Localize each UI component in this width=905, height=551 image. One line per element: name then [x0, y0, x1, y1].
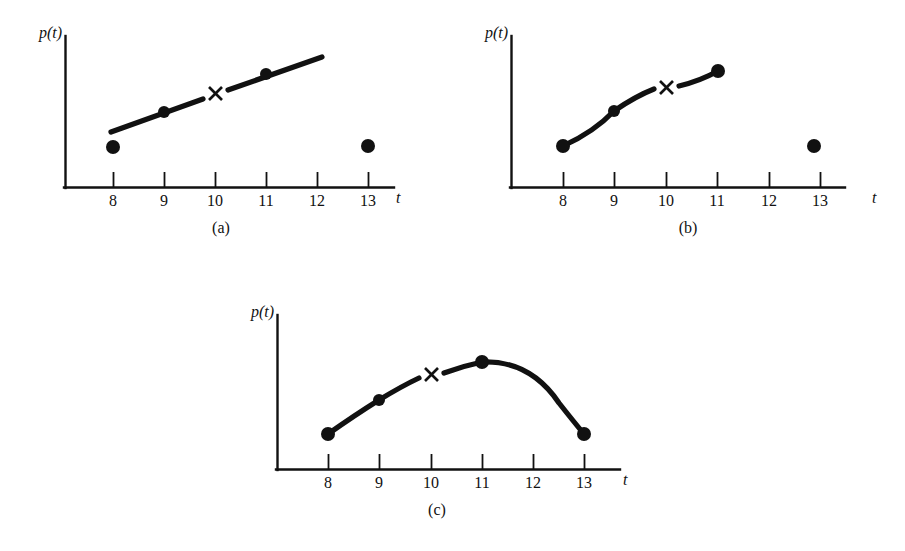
panel-a-fitted-line-right: [228, 57, 322, 90]
panel-a-observed-point-13: [361, 139, 375, 153]
panel-b-ticks: [564, 172, 821, 187]
panel-b-y-axis-label: p(t): [485, 25, 508, 41]
panel-a-tick-label-12: 12: [309, 193, 325, 209]
panel-c-fitted-point-11: [475, 355, 489, 369]
panel-b-fitted-curve-left: [563, 89, 654, 146]
panel-c-fitted-point-8: [321, 427, 335, 441]
panel-b-tick-label-13: 13: [812, 193, 828, 209]
panel-c-fitted-point-13: [577, 427, 591, 441]
panel-c-y-axis-label: p(t): [251, 304, 274, 320]
panel-c-tick-label-9: 9: [375, 475, 383, 491]
panel-b-tick-label-8: 8: [559, 193, 567, 209]
panel-b-observed-point-13: [807, 139, 821, 153]
panel-a-tick-label-8: 8: [109, 193, 117, 209]
panel-c-caption: (c): [428, 502, 446, 518]
panel-c-fitted-curve-right: [444, 362, 584, 434]
panel-c-ticks: [329, 454, 585, 469]
figure-root: p(t) t 8 9 10 11 12 13 (a) p(t) t 8 9 10…: [0, 0, 905, 551]
panel-b-fitted-point-11: [711, 64, 725, 78]
panel-a-tick-label-10: 10: [207, 193, 223, 209]
panel-c-tick-label-11: 11: [474, 475, 489, 491]
panel-c: [276, 315, 620, 470]
panel-a-x-axis-label: t: [396, 190, 400, 206]
panel-b-fitted-point-9: [608, 105, 620, 117]
figure-canvas: [0, 0, 905, 551]
panel-c-tick-label-10: 10: [423, 475, 439, 491]
panel-b-x-axis-label: t: [872, 190, 876, 206]
panel-a-caption: (a): [212, 220, 230, 236]
panel-a-fitted-point-11: [260, 68, 272, 80]
panel-b: [510, 36, 845, 188]
panel-a-tick-label-13: 13: [360, 193, 376, 209]
panel-c-tick-label-13: 13: [576, 475, 592, 491]
panel-a-fitted-line-left: [111, 99, 203, 132]
panel-a-tick-label-11: 11: [258, 193, 273, 209]
panel-b-tick-label-11: 11: [709, 193, 724, 209]
panel-a-tick-label-9: 9: [160, 193, 168, 209]
panel-b-extrapolation-x-icon: [660, 81, 673, 94]
panel-a-fitted-point-9: [158, 106, 170, 118]
panel-a-observed-point-8: [106, 140, 120, 154]
panel-c-tick-label-12: 12: [525, 475, 541, 491]
panel-c-tick-label-8: 8: [324, 475, 332, 491]
panel-a-y-axis-label: p(t): [39, 25, 62, 41]
panel-c-extrapolation-x-icon: [425, 368, 438, 381]
panel-c-fitted-point-9: [373, 394, 385, 406]
panel-c-fitted-curve-left: [328, 378, 419, 434]
panel-a-ticks: [114, 172, 369, 187]
panel-b-tick-label-10: 10: [658, 193, 674, 209]
panel-a: [64, 36, 394, 188]
panel-a-extrapolation-x-icon: [209, 87, 222, 100]
panel-c-x-axis-label: t: [623, 472, 627, 488]
panel-b-tick-label-12: 12: [761, 193, 777, 209]
panel-b-caption: (b): [679, 220, 698, 236]
panel-b-fitted-point-8: [556, 139, 570, 153]
panel-b-tick-label-9: 9: [610, 193, 618, 209]
